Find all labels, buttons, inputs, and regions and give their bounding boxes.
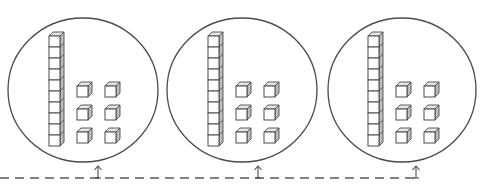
ten-rod [49, 32, 64, 146]
rod-unit [49, 58, 60, 69]
unit-cube [264, 128, 279, 143]
base-ten-diagram: Three circled groups of base-ten blocks,… [0, 0, 487, 188]
rod-unit [49, 102, 60, 113]
unit-cube [396, 82, 411, 97]
rod-unit [49, 113, 60, 124]
circled-group-2 [167, 18, 317, 162]
circled-group-1 [8, 18, 158, 162]
rod-unit [49, 80, 60, 91]
unit-cube [396, 105, 411, 120]
up-arrow-icon [95, 166, 102, 178]
rod-unit [368, 135, 379, 146]
circled-group-3 [328, 18, 476, 162]
rod-unit [208, 124, 219, 135]
rod-unit [368, 113, 379, 124]
rod-unit [208, 47, 219, 58]
unit-cube [105, 105, 120, 120]
rod-unit [49, 135, 60, 146]
rod-unit [49, 69, 60, 80]
rod-unit [368, 124, 379, 135]
rod-unit [208, 58, 219, 69]
dashed-connector [0, 166, 420, 178]
up-arrow-icon [255, 166, 262, 178]
rod-unit [208, 135, 219, 146]
unit-cube [236, 105, 251, 120]
rod-unit [368, 91, 379, 102]
rod-unit [368, 102, 379, 113]
unit-cube [424, 82, 439, 97]
up-arrow-icon [413, 166, 420, 178]
rod-unit [368, 80, 379, 91]
rod-unit [208, 69, 219, 80]
rod-unit [49, 47, 60, 58]
unit-cube [236, 128, 251, 143]
unit-cube [424, 128, 439, 143]
rod-unit [49, 124, 60, 135]
rod-unit [49, 36, 60, 47]
rod-unit [368, 47, 379, 58]
unit-cube [105, 128, 120, 143]
ten-rod [208, 32, 223, 146]
unit-cube [264, 82, 279, 97]
unit-cube [77, 128, 92, 143]
rod-unit [208, 91, 219, 102]
ten-rod [368, 32, 383, 146]
rod-unit [208, 102, 219, 113]
rod-unit [368, 36, 379, 47]
rod-unit [208, 113, 219, 124]
unit-cube [77, 105, 92, 120]
rod-unit [368, 69, 379, 80]
unit-cube [264, 105, 279, 120]
unit-cube [77, 82, 92, 97]
unit-cube [105, 82, 120, 97]
rod-unit [208, 36, 219, 47]
rod-unit [368, 58, 379, 69]
unit-cube [236, 82, 251, 97]
diagram-svg [0, 0, 487, 188]
rod-unit [208, 80, 219, 91]
unit-cube [424, 105, 439, 120]
unit-cube [396, 128, 411, 143]
rod-unit [49, 91, 60, 102]
